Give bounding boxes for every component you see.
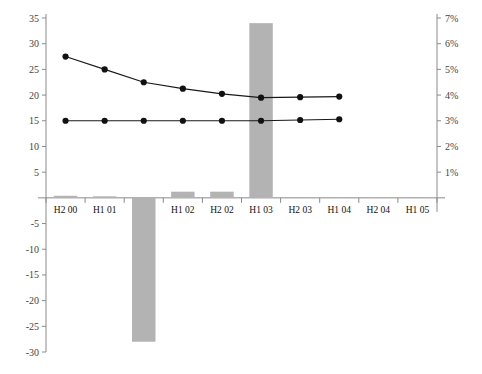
category-label: H2 04 (367, 205, 391, 215)
bar (210, 192, 233, 198)
data-point-marker (297, 94, 303, 100)
left-axis-tick-label: 20 (29, 90, 39, 101)
right-axis-tick-label: 2% (445, 141, 458, 152)
category-label: H1 04 (328, 205, 352, 215)
data-point-marker (180, 86, 186, 92)
data-point-marker (102, 66, 108, 72)
data-point-marker (297, 117, 303, 123)
right-axis-tick-label: 3% (445, 115, 458, 126)
left-axis-tick-label: 30 (29, 38, 39, 49)
right-axis-tick-label: 6% (445, 38, 458, 49)
left-axis-tick-label: -5 (31, 218, 39, 229)
bar (171, 192, 194, 198)
bar (54, 196, 77, 198)
category-label: H1 05 (406, 205, 430, 215)
data-point-marker (336, 116, 342, 122)
left-axis-tick-label: 5 (34, 167, 39, 178)
right-axis-tick-label: 7% (445, 13, 458, 24)
data-point-marker (219, 91, 225, 97)
bar (249, 23, 272, 198)
left-axis-tick-label: 35 (29, 13, 39, 24)
bar (132, 198, 155, 342)
left-axis-tick-label: -20 (26, 295, 39, 306)
bar (93, 196, 116, 198)
left-axis-tick-label: -30 (26, 347, 39, 358)
right-axis-tick-label: 5% (445, 64, 458, 75)
data-point-marker (62, 118, 68, 124)
left-axis-tick-label: -10 (26, 244, 39, 255)
left-axis-tick-label: 15 (29, 115, 39, 126)
chart-container: 3530252015105-5-10-15-20-25-307%6%5%4%3%… (0, 0, 482, 374)
category-label: H1 02 (171, 205, 195, 215)
right-axis-tick-label: 1% (445, 167, 458, 178)
category-label: H1 03 (249, 205, 273, 215)
data-point-marker (258, 118, 264, 124)
category-label: H1 01 (93, 205, 117, 215)
left-axis-tick-label: -25 (26, 321, 39, 332)
data-point-marker (141, 79, 147, 85)
data-point-marker (219, 118, 225, 124)
chart-canvas: 3530252015105-5-10-15-20-25-307%6%5%4%3%… (0, 0, 482, 374)
line-series-1 (66, 57, 340, 98)
data-point-marker (180, 118, 186, 124)
data-point-marker (336, 94, 342, 100)
data-point-marker (141, 118, 147, 124)
left-axis-tick-label: 10 (29, 141, 39, 152)
data-point-marker (102, 118, 108, 124)
right-axis-tick-label: 4% (445, 90, 458, 101)
category-label: H2 00 (54, 205, 78, 215)
category-label: H2 02 (210, 205, 234, 215)
left-axis-tick-label: -15 (26, 269, 39, 280)
data-point-marker (258, 95, 264, 101)
category-label: H2 03 (288, 205, 312, 215)
left-axis-tick-label: 25 (29, 64, 39, 75)
data-point-marker (62, 53, 68, 59)
